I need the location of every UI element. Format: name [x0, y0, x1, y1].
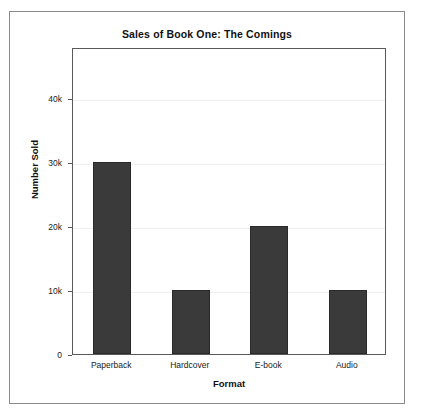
bar-hardcover[interactable]: [172, 290, 210, 354]
y-tick-mark: [68, 99, 72, 100]
y-tick-label: 10k: [22, 286, 62, 296]
x-tick-label: Hardcover: [170, 360, 209, 370]
x-tick-label: Audio: [336, 360, 358, 370]
x-tick-label: Paperback: [91, 360, 132, 370]
bar-e-book[interactable]: [250, 226, 288, 354]
chart-figure: Sales of Book One: The Comings Number So…: [9, 11, 405, 404]
bar-audio[interactable]: [329, 290, 367, 354]
bar-series: [73, 49, 385, 354]
x-tick-label: E-book: [255, 360, 282, 370]
y-tick-label: 0: [22, 350, 62, 360]
y-tick-mark: [68, 163, 72, 164]
chart-title: Sales of Book One: The Comings: [10, 28, 404, 40]
y-tick-label: 20k: [22, 222, 62, 232]
y-tick-mark: [68, 227, 72, 228]
plot-area: [72, 48, 386, 355]
y-tick-label: 30k: [22, 158, 62, 168]
x-axis-title: Format: [72, 378, 386, 389]
y-tick-label: 40k: [22, 94, 62, 104]
y-axis-title: Number Sold: [29, 125, 40, 215]
y-tick-mark: [68, 291, 72, 292]
y-tick-mark: [68, 355, 72, 356]
bar-paperback[interactable]: [93, 162, 131, 354]
